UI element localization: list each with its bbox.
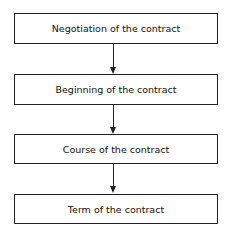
arrow-line xyxy=(113,105,114,128)
node-label: Course of the contract xyxy=(63,144,169,155)
node-term: Term of the contract xyxy=(14,194,218,224)
node-course: Course of the contract xyxy=(14,134,218,164)
node-negotiation: Negotiation of the contract xyxy=(14,13,218,44)
arrow-down-icon xyxy=(110,67,116,74)
arrow-down-icon xyxy=(110,186,116,193)
arrow-line xyxy=(113,44,114,68)
arrow-line xyxy=(113,164,114,187)
node-label: Negotiation of the contract xyxy=(52,23,180,34)
node-label: Term of the contract xyxy=(68,204,164,215)
arrow-down-icon xyxy=(110,127,116,134)
node-label: Beginning of the contract xyxy=(55,84,176,95)
node-beginning: Beginning of the contract xyxy=(14,74,218,105)
